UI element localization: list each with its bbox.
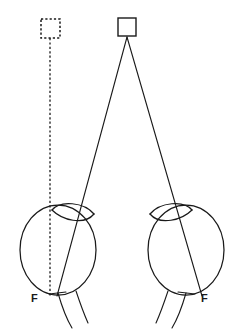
right-eye-lens-arc xyxy=(150,210,192,221)
ray-to-left-eye-fovea xyxy=(57,37,127,296)
right-eye: F xyxy=(148,204,224,328)
ray-to-right-eye-fovea xyxy=(127,37,202,296)
real-target-square xyxy=(118,18,136,36)
left-optic-nerve-strand-2 xyxy=(76,291,88,323)
diagram-canvas: F F xyxy=(0,0,242,333)
left-eye-globe xyxy=(20,205,96,295)
ray-group xyxy=(57,37,202,296)
right-optic-nerve-strand-1 xyxy=(172,293,186,328)
right-fovea-marker xyxy=(178,292,195,294)
right-eye-globe xyxy=(148,205,224,295)
right-fovea-label: F xyxy=(201,292,208,304)
left-fovea-label: F xyxy=(31,292,38,304)
left-eye: F xyxy=(20,204,96,328)
left-eye-lens-arc xyxy=(52,210,94,221)
left-optic-nerve-strand-1 xyxy=(58,293,72,328)
virtual-target-square xyxy=(41,19,60,38)
right-optic-nerve-strand-2 xyxy=(156,291,168,323)
ray-diagram-figure: F F xyxy=(0,0,242,333)
